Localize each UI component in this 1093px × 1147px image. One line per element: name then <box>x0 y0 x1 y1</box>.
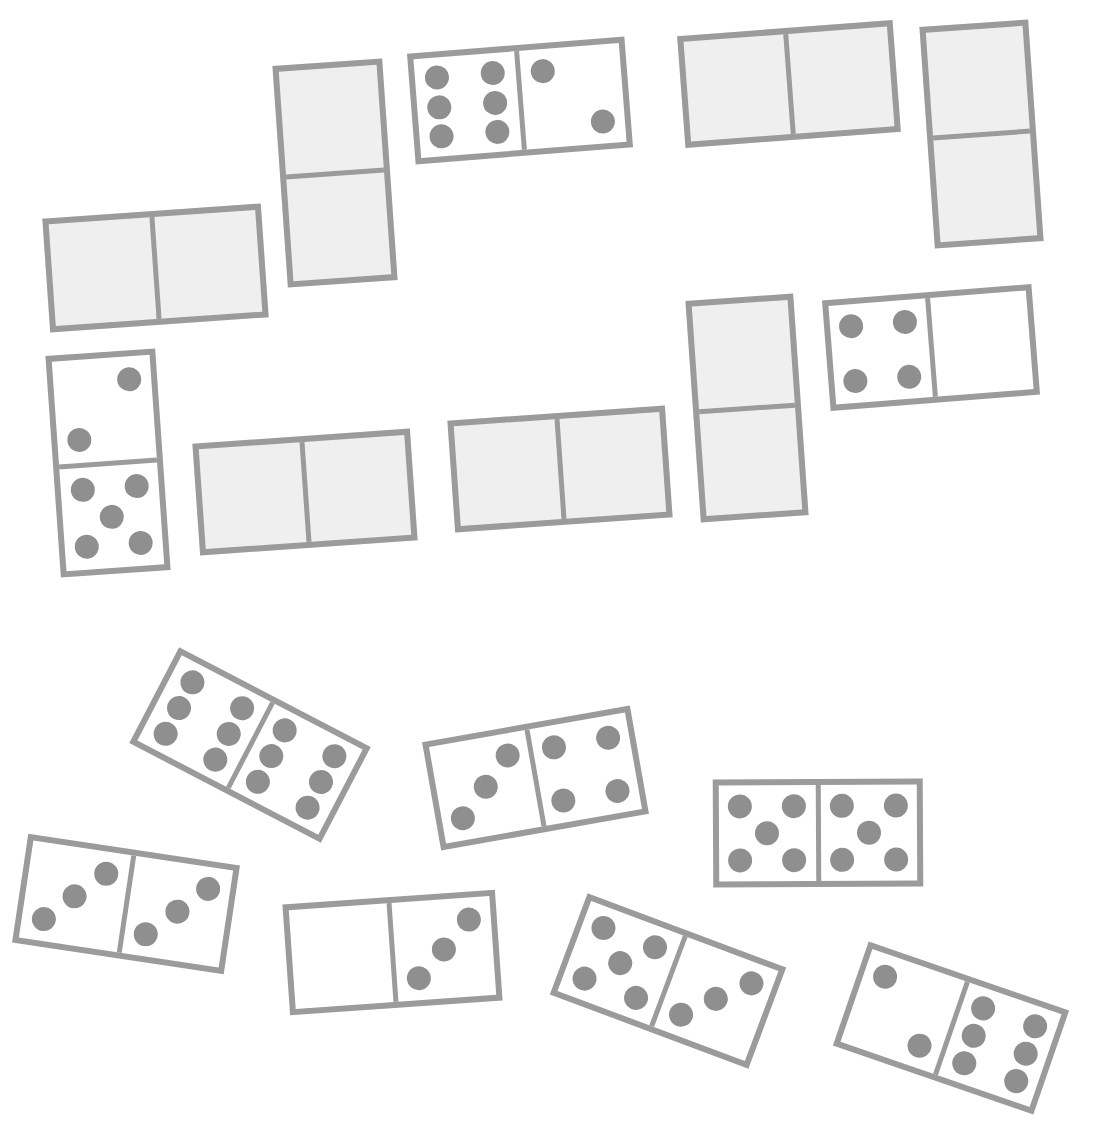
pip-dot <box>305 766 337 798</box>
pip-dot <box>66 427 92 453</box>
pip-dot <box>755 821 779 845</box>
pip-dot <box>483 89 509 115</box>
pip-dot <box>318 740 350 772</box>
domino-half-second <box>783 26 895 134</box>
domino-tile[interactable] <box>833 941 1069 1114</box>
domino-tile[interactable] <box>685 294 808 523</box>
domino-tile[interactable] <box>919 19 1043 248</box>
pip-dot <box>843 368 869 394</box>
domino-half-second <box>932 128 1036 242</box>
pip-dot <box>471 773 499 801</box>
pip-dot <box>124 473 150 499</box>
domino-half-first <box>19 841 131 952</box>
pip-dot <box>269 715 301 747</box>
pip-dot <box>485 119 511 145</box>
pip-dot <box>212 718 244 750</box>
pip-dot <box>701 984 732 1015</box>
pip-dot <box>605 948 636 979</box>
domino-half-first <box>288 903 393 1009</box>
domino-tile[interactable] <box>677 20 901 148</box>
pip-dot <box>99 504 125 530</box>
pip-dot <box>838 313 864 339</box>
pip-dot <box>782 848 806 872</box>
pip-dot <box>590 108 616 134</box>
pip-dot <box>958 1021 989 1052</box>
domino-half-first <box>52 355 157 464</box>
pip-dot <box>70 477 96 503</box>
pip-dot <box>292 791 324 823</box>
pip-dot <box>424 64 450 90</box>
domino-tile[interactable] <box>422 706 649 851</box>
pip-dot <box>61 883 88 910</box>
domino-half-first <box>828 298 932 404</box>
pip-dot <box>570 963 601 994</box>
domino-half-second <box>149 210 262 319</box>
pip-dot <box>892 308 918 334</box>
domino-half-first <box>684 34 791 141</box>
domino-tile[interactable] <box>822 283 1040 410</box>
pip-dot <box>493 741 521 769</box>
pip-dot <box>93 860 120 887</box>
pip-dot <box>603 778 631 806</box>
domino-tile[interactable] <box>12 834 240 974</box>
pip-dot <box>897 364 923 390</box>
domino-half-second <box>59 457 164 571</box>
pip-dot <box>904 1031 935 1062</box>
domino-half-first <box>429 730 542 843</box>
domino-tile[interactable] <box>45 348 170 577</box>
pip-dot <box>132 921 159 948</box>
pip-dot <box>621 982 652 1013</box>
pip-dot <box>1020 1011 1051 1042</box>
pip-dot <box>449 805 477 833</box>
pip-dot <box>176 666 208 698</box>
domino-half-first <box>48 217 156 326</box>
pip-dot <box>195 875 222 902</box>
pip-dot <box>736 968 767 999</box>
domino-tile[interactable] <box>447 406 672 533</box>
pip-dot <box>128 531 154 557</box>
domino-tile[interactable] <box>713 778 924 887</box>
pip-dot <box>429 123 455 149</box>
domino-half-second <box>554 412 666 519</box>
domino-tile[interactable] <box>42 204 268 333</box>
pip-dot <box>593 723 621 751</box>
pip-dot <box>640 932 671 963</box>
domino-tile[interactable] <box>407 36 633 164</box>
domino-half-second <box>514 43 627 150</box>
domino-tile[interactable] <box>192 429 417 556</box>
pip-dot <box>549 787 577 815</box>
domino-half-second <box>299 435 411 542</box>
domino-half-second <box>116 855 233 967</box>
domino-tile[interactable] <box>282 889 502 1015</box>
pip-dot <box>588 913 619 944</box>
pip-dot <box>540 733 568 761</box>
domino-tile[interactable] <box>550 893 786 1068</box>
pip-dot <box>431 936 457 962</box>
domino-half-second <box>815 784 917 881</box>
domino-half-second <box>925 290 1034 397</box>
domino-half-second <box>386 896 496 1002</box>
domino-half-first <box>719 785 816 882</box>
domino-half-second <box>699 402 802 516</box>
pip-dot <box>30 906 57 933</box>
domino-tile[interactable] <box>129 647 370 843</box>
pip-dot <box>884 794 908 818</box>
domino-half-first <box>279 65 384 174</box>
pip-dot <box>830 794 854 818</box>
pip-dot <box>164 898 191 925</box>
domino-tile[interactable] <box>272 58 397 287</box>
pip-dot <box>728 794 752 818</box>
pip-dot <box>949 1048 980 1079</box>
pip-dot <box>225 692 257 724</box>
domino-half-second <box>286 167 391 281</box>
pip-dot <box>830 848 854 872</box>
pip-dot <box>74 534 100 560</box>
pip-dot <box>199 743 231 775</box>
pip-dot <box>405 965 431 991</box>
pip-dot <box>242 766 274 798</box>
domino-half-second <box>524 712 641 826</box>
pip-dot <box>529 58 555 84</box>
pip-dot <box>426 93 452 119</box>
pip-dot <box>666 999 697 1030</box>
pip-dot <box>480 59 506 85</box>
